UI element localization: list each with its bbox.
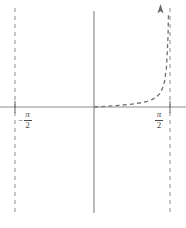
fraction-numerator: π [156, 110, 163, 119]
x-tick-label-pos-half-pi: π 2 [155, 110, 163, 131]
tangent-function-figure: − π 2 π 2 [0, 0, 186, 228]
fraction-denominator: 2 [24, 121, 31, 130]
fraction-pos-half-pi: π 2 [155, 110, 163, 131]
fraction-numerator: π [24, 110, 31, 119]
x-tick-label-neg-half-pi: − π 2 [18, 110, 32, 131]
fraction-neg-half-pi: π 2 [24, 110, 32, 131]
fraction-denominator: 2 [156, 121, 163, 130]
curve-arrowhead-icon [157, 4, 163, 13]
tangent-curve-path [94, 14, 168, 107]
